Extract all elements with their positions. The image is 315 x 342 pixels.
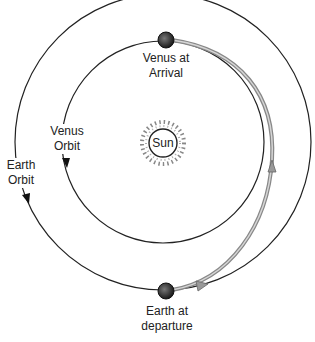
venus-arrival-label: Venus at Arrival xyxy=(138,51,194,81)
sun-label-text: Sun xyxy=(152,136,173,150)
transfer-arrow-bottom xyxy=(196,281,208,291)
venus-arrival-line2: Arrival xyxy=(138,66,194,81)
earth-orbit-line1: Earth xyxy=(4,158,38,173)
venus-orbit-label: Venus Orbit xyxy=(50,124,84,154)
venus-orbit-line2: Orbit xyxy=(50,139,84,154)
venus-arrival-line1: Venus at xyxy=(138,51,194,66)
sun-label: Sun xyxy=(149,136,177,150)
venus-planet xyxy=(158,32,174,48)
venus-orbit-line1: Venus xyxy=(50,124,84,139)
earth-orbit-line2: Orbit xyxy=(4,173,38,188)
earth-departure-label: Earth at departure xyxy=(134,304,200,334)
earth-departure-line2: departure xyxy=(134,319,200,334)
earth-planet xyxy=(158,283,174,299)
earth-orbit-label: Earth Orbit xyxy=(4,158,38,188)
venus-orbit-direction-arrow xyxy=(62,158,70,168)
earth-orbit-direction-arrow xyxy=(22,193,30,204)
transfer-arrow-right xyxy=(268,160,276,172)
earth-departure-line1: Earth at xyxy=(134,304,200,319)
